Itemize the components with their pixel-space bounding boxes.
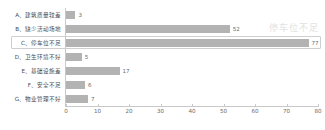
- x-tick-mark: [287, 104, 288, 107]
- x-tick-mark: [318, 104, 319, 107]
- category-label: B、缺少活动场地: [0, 23, 61, 35]
- bar[interactable]: [66, 53, 82, 61]
- x-tick-mark: [66, 104, 67, 107]
- x-tick-mark: [129, 104, 130, 107]
- category-label: A、建筑质量较差: [0, 9, 61, 21]
- x-tick-mark: [224, 104, 225, 107]
- x-tick-label: 30: [157, 108, 164, 114]
- bar-value-label: 5: [85, 51, 89, 63]
- x-tick-label: 50: [220, 108, 227, 114]
- x-tick-mark: [98, 104, 99, 107]
- category-label: D、卫生环境不好: [0, 51, 61, 63]
- bar-value-label: 77: [312, 37, 319, 49]
- x-tick-label: 80: [314, 108, 321, 114]
- bar[interactable]: [66, 39, 309, 47]
- bar-value-label: 3: [78, 9, 82, 21]
- x-tick-label: 0: [64, 108, 68, 114]
- bar-rows: A、建筑质量较差3B、缺少活动场地52C、停车位不足77D、卫生环境不好5E、基…: [0, 8, 325, 106]
- category-label: C、停车位不足: [0, 37, 61, 49]
- x-tick-mark: [192, 104, 193, 107]
- bar-row[interactable]: E、基础设施差17: [0, 65, 325, 77]
- bar[interactable]: [66, 25, 230, 33]
- bar-value-label: 6: [88, 79, 92, 91]
- bar[interactable]: [66, 11, 75, 19]
- bar-row[interactable]: B、缺少活动场地52: [0, 23, 325, 35]
- x-axis-ticks: 01020304050607080: [0, 108, 325, 122]
- category-label: F、安全不足: [0, 79, 61, 91]
- x-tick-label: 60: [251, 108, 258, 114]
- bar-value-label: 7: [91, 93, 95, 105]
- bar[interactable]: [66, 67, 120, 75]
- x-tick-label: 70: [283, 108, 290, 114]
- category-label: E、基础设施差: [0, 65, 61, 77]
- plot-area: A、建筑质量较差3B、缺少活动场地52C、停车位不足77D、卫生环境不好5E、基…: [0, 8, 325, 108]
- x-tick-label: 40: [188, 108, 195, 114]
- x-tick-label: 10: [94, 108, 101, 114]
- bar-row[interactable]: D、卫生环境不好5: [0, 51, 325, 63]
- x-tick-mark: [255, 104, 256, 107]
- bar[interactable]: [66, 95, 88, 103]
- bar-row[interactable]: C、停车位不足77: [0, 37, 325, 49]
- x-tick-label: 20: [125, 108, 132, 114]
- bar-chart: 停车位不足 A、建筑质量较差3B、缺少活动场地52C、停车位不足77D、卫生环境…: [0, 0, 325, 130]
- bar-value-label: 52: [233, 23, 240, 35]
- bar[interactable]: [66, 81, 85, 89]
- bar-row[interactable]: F、安全不足6: [0, 79, 325, 91]
- bar-row[interactable]: G、物业管理不好7: [0, 93, 325, 105]
- bar-row[interactable]: A、建筑质量较差3: [0, 9, 325, 21]
- x-tick-mark: [161, 104, 162, 107]
- bar-value-label: 17: [123, 65, 130, 77]
- category-label: G、物业管理不好: [0, 93, 61, 105]
